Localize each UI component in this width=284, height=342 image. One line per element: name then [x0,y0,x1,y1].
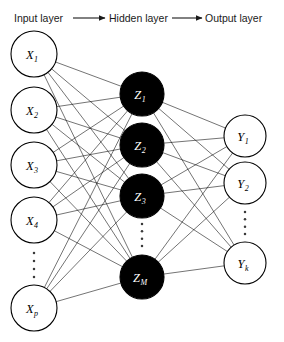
ellipsis-dot-input [33,252,36,255]
node-input-X4: X4 [11,197,57,243]
connection-edge [155,153,233,259]
connection-edge [52,69,126,131]
layer-header-label-1: Hidden layer [109,12,168,24]
connection-edge [56,62,122,86]
ellipsis-dot-hidden [141,230,144,233]
layer-header-group: Input layerHidden layerOutput layer [14,12,263,24]
connection-edge [54,231,122,267]
connection-edge [53,106,123,152]
node-label-subscript: p [33,309,38,318]
node-output-Y2: Y2 [224,162,266,204]
nodes-group: X1X2X3X4XpZ1Z2Z3ZMY1Y2Yk [11,31,266,331]
node-hidden-Z3: Z3 [120,174,164,218]
node-label-subscript: 2 [34,111,38,120]
node-hidden-Z1: Z1 [120,72,164,116]
layer-header-label-0: Input layer [14,12,64,24]
ellipsis-dot-output [244,218,247,221]
node-output-Yk: Yk [224,242,266,284]
node-label-subscript: 1 [245,137,249,146]
connection-edge [44,114,132,288]
ellipsis-dot-output [244,225,247,228]
ellipsis-dot-input [33,268,36,271]
connection-edge [57,97,120,106]
node-label-subscript: M [139,278,148,287]
connection-edge [162,102,225,128]
node-label-subscript: 4 [34,221,38,230]
node-label-subscript: 2 [142,146,146,155]
neural-network-diagram: X1X2X3X4XpZ1Z2Z3ZMY1Y2Yk Input layerHidd… [0,0,284,342]
connection-edge [164,186,224,194]
connection-edge [53,158,124,207]
connection-edge [156,162,231,248]
ellipsis-dot-hidden [141,237,144,240]
node-hidden-ZM: ZM [120,255,164,299]
connection-edge [56,171,121,190]
node-input-X1: X1 [11,31,57,77]
ellipsis-dot-input [33,260,36,263]
node-input-Xp: Xp [11,285,57,331]
node-input-X3: X3 [11,142,57,188]
layer-header-label-2: Output layer [205,12,263,24]
connection-edge [153,113,234,245]
ellipsis-dot-input [33,276,36,279]
node-input-X2: X2 [11,87,57,133]
connection-edge [164,266,224,274]
node-label-subscript: 3 [33,166,38,175]
ellipsis-dot-hidden [141,223,144,226]
network-canvas: X1X2X3X4XpZ1Z2Z3ZMY1Y2Yk Input layerHidd… [0,0,284,342]
node-output-Y1: Y1 [224,115,266,157]
node-label-subscript: 1 [142,95,146,104]
node-hidden-Z2: Z2 [120,123,164,167]
node-label-subscript: k [245,264,249,273]
connection-edge [163,153,226,176]
ellipsis-dot-output [244,233,247,236]
ellipsis-dot-output [244,211,247,214]
node-label-subscript: 3 [141,197,146,206]
connection-edge [56,283,121,302]
ellipsis-dot-hidden [141,245,144,248]
node-label-subscript: 1 [34,55,38,64]
connection-edge [50,212,127,292]
connection-edge [158,197,229,262]
connection-edge [52,124,125,182]
node-label-subscript: 2 [245,184,249,193]
